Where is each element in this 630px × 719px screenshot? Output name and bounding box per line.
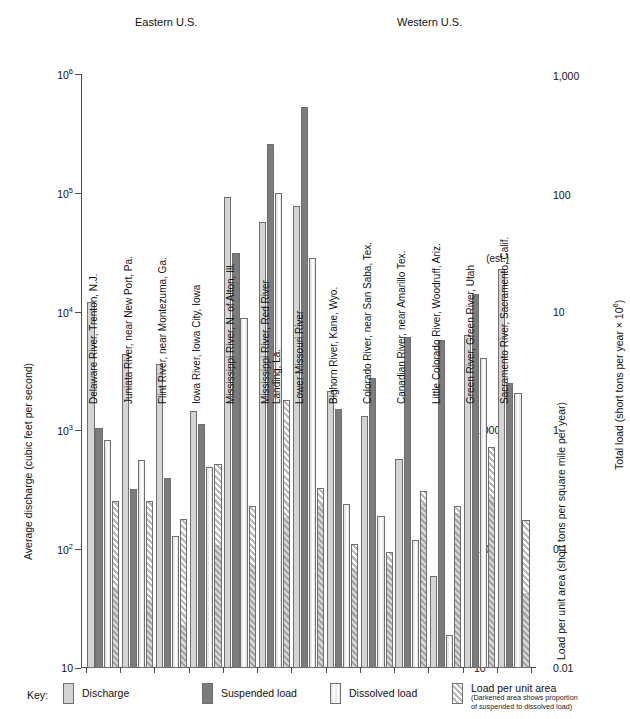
x-tick-mark <box>497 668 498 673</box>
region-header-eastern: Eastern U.S. <box>135 16 197 28</box>
x-tick-mark <box>154 668 155 673</box>
y-tick-mark <box>75 668 81 669</box>
x-tick-mark <box>531 668 532 673</box>
bar-dissolved <box>275 193 282 668</box>
bar-lpua-darkened-portion <box>523 593 528 667</box>
bar-lpua-darkened-portion <box>318 505 323 667</box>
bar-discharge <box>293 206 300 668</box>
x-tick-mark <box>463 668 464 673</box>
x-tick-mark <box>257 668 258 673</box>
category-label: Flint River, near Montezuma, Ga. <box>158 257 168 404</box>
bar-dissolved <box>514 393 521 668</box>
y-tick-mark <box>75 193 81 194</box>
y-axis-line <box>81 74 82 668</box>
y-tick-label-100: 102 <box>57 543 73 555</box>
bar-dissolved <box>480 358 487 668</box>
bar-suspended <box>506 383 513 668</box>
category-label: Delaware River, Trenton, N.J. <box>89 273 99 404</box>
category-label: Lower Missouri River <box>295 311 305 404</box>
x-tick-mark <box>326 668 327 673</box>
bar-lpua <box>420 491 427 668</box>
bar-suspended <box>130 489 137 668</box>
y-tick-label-100000: 105 <box>57 187 73 199</box>
legend-swatch-dissolved-load <box>330 683 341 704</box>
bar-lpua-darkened-portion <box>113 587 118 667</box>
x-tick-mark <box>394 668 395 673</box>
bar-lpua-darkened-portion <box>284 517 289 667</box>
bar-suspended <box>335 409 342 668</box>
y-tick-label-10: 10 <box>61 663 73 674</box>
legend-key-label: Key: <box>27 689 48 701</box>
x-tick-mark <box>291 668 292 673</box>
category-label: Colorado River, near San Saba, Tex. <box>363 242 373 404</box>
bar-lpua-darkened-portion <box>215 545 220 667</box>
bar-lpua-darkened-portion <box>421 504 426 667</box>
right-outer-tick-100: 100 <box>553 190 571 201</box>
x-tick-mark <box>428 668 429 673</box>
figure-root: Eastern U.S. Western U.S. Average discha… <box>0 0 630 719</box>
category-label-line2: Landing, La. <box>272 349 282 404</box>
right-inner-axis-title: Load per unit area (short tons per squar… <box>555 402 567 660</box>
x-tick-mark <box>86 668 87 673</box>
x-tick-mark <box>223 668 224 673</box>
bar-lpua-darkened-portion <box>181 625 186 667</box>
right-outer-tick-0-1: 0.1 <box>553 544 568 555</box>
bar-lpua-darkened-portion <box>387 565 392 667</box>
legend-swatch-discharge <box>63 683 74 704</box>
bar-suspended <box>164 478 171 668</box>
bar-lpua <box>283 400 290 668</box>
y-tick-label-1000: 103 <box>57 424 73 436</box>
right-outer-tick-10: 10 <box>553 307 565 318</box>
y-tick-mark <box>75 549 81 550</box>
bar-dissolved <box>309 258 316 668</box>
y-tick-mark <box>75 430 81 431</box>
bar-dissolved <box>172 536 179 668</box>
bar-lpua <box>317 488 324 668</box>
bar-discharge <box>395 459 402 668</box>
right-outer-tick-1000: 1,000 <box>553 71 579 82</box>
bar-lpua-darkened-portion <box>489 497 494 667</box>
bar-suspended <box>198 424 205 668</box>
category-label: Mississippi River, N. of Alton, Ill. <box>226 263 236 404</box>
category-label: Bighorn River, Kane, Wyo. <box>329 287 339 404</box>
right-outer-tick-0-01: 0.01 <box>553 663 573 674</box>
bar-lpua <box>386 552 393 668</box>
bar-lpua <box>488 447 495 668</box>
legend-swatch-suspended-load <box>202 683 213 704</box>
x-tick-mark <box>360 668 361 673</box>
y-tick-label-1000000: 106 <box>57 68 73 80</box>
bar-dissolved <box>412 540 419 668</box>
bar-dissolved <box>104 440 111 668</box>
bar-suspended <box>369 378 376 668</box>
y-tick-label-10000: 104 <box>57 306 73 318</box>
region-header-western: Western U.S. <box>397 16 462 28</box>
bar-lpua <box>180 519 187 668</box>
bar-dissolved <box>138 460 145 668</box>
bar-lpua <box>112 501 119 668</box>
legend-swatch-load-per-unit-area <box>452 683 463 704</box>
bar-lpua-darkened-portion <box>250 565 255 667</box>
bar-dissolved <box>343 504 350 668</box>
bar-discharge <box>156 364 163 668</box>
right-outer-tick-1: 1 <box>553 425 559 436</box>
bar-discharge <box>430 576 437 668</box>
y-tick-mark <box>75 74 81 75</box>
plot-area: 10610510410310210 Delaware River, Trento… <box>81 74 536 668</box>
legend-label-discharge: Discharge <box>82 687 129 699</box>
legend-sub-line-2: of suspended to dissolved load) <box>471 703 572 711</box>
estimate-note: (est.) <box>486 253 509 264</box>
bar-lpua <box>214 464 221 668</box>
bar-lpua <box>351 544 358 668</box>
bar-lpua-darkened-portion <box>147 600 152 667</box>
x-tick-mark <box>120 668 121 673</box>
bar-lpua-darkened-portion <box>455 513 460 667</box>
bar-dissolved <box>377 516 384 668</box>
left-axis-title: Average discharge (cubic feet per second… <box>22 363 34 560</box>
bar-lpua <box>454 506 461 668</box>
bar-lpua <box>249 506 256 668</box>
category-label: Little Colorado River, Woodruff, Ariz. <box>432 243 442 404</box>
bar-dissolved <box>240 318 247 668</box>
right-outer-axis-title: Total load (short tons per year × 106) <box>611 300 625 470</box>
bar-discharge <box>190 411 197 668</box>
bar-lpua-darkened-portion <box>352 568 357 667</box>
